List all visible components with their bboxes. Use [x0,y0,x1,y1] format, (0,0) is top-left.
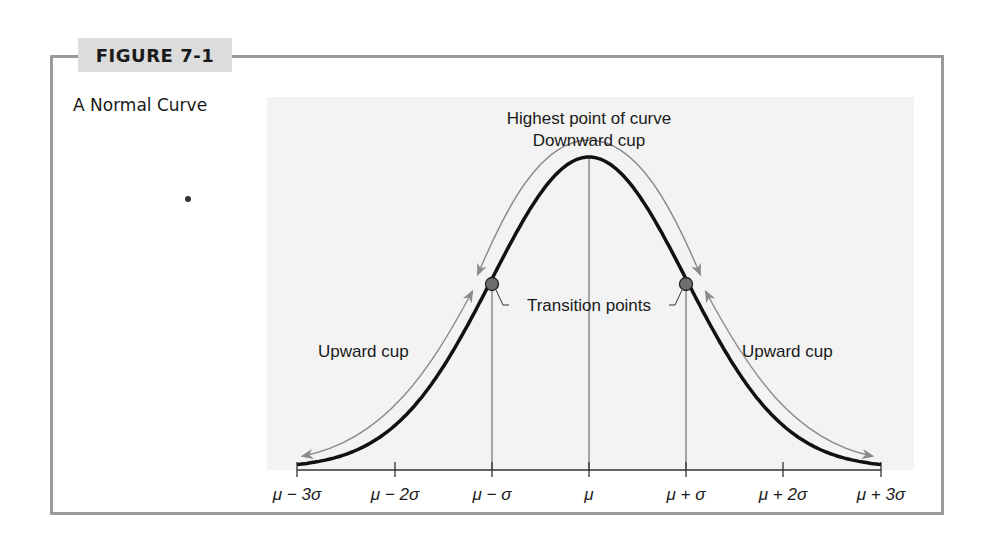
downward-cup-label: Downward cup [533,131,645,150]
tick-label: μ − 2σ [370,485,420,504]
tick-label: μ [583,485,594,504]
tick-label: μ + σ [666,485,707,504]
plot-background [267,97,914,470]
transition-points-label: Transition points [527,296,651,315]
tick-label: μ + 2σ [758,485,808,504]
transition-point-left [486,278,499,291]
tick-label: μ − 3σ [272,485,322,504]
tick-labels: μ − 3σ μ − 2σ μ − σ μ μ + σ μ + 2σ μ + 3… [272,485,906,504]
tick-label: μ − σ [472,485,513,504]
upward-cup-label-right: Upward cup [742,342,833,361]
tick-label: μ + 3σ [856,485,906,504]
peak-label: Highest point of curve [507,109,671,128]
transition-point-right [680,278,693,291]
upward-cup-label-left: Upward cup [318,342,409,361]
normal-curve-chart: Highest point of curve Downward cup Tran… [0,0,994,536]
